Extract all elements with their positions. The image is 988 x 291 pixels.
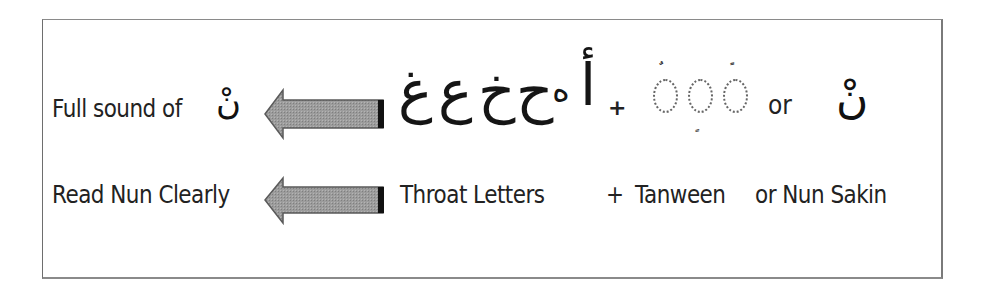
throat-letter-haa: ح	[516, 62, 553, 120]
tanween-dammatain-circle	[653, 79, 678, 113]
nun-sakin-symbol-left: نْ	[216, 82, 241, 122]
tanween-label: Tanween	[635, 180, 725, 209]
full-sound-label: Full sound of	[52, 94, 182, 123]
throat-letter-ghain: غ	[398, 62, 433, 120]
throat-letter-ha: ه	[552, 72, 570, 106]
throat-letter-khaa: خ	[478, 62, 515, 120]
left-arrow-icon	[263, 88, 387, 140]
read-nun-clearly-label: Read Nun Clearly	[52, 180, 230, 209]
or-label: or	[768, 90, 792, 120]
throat-letter-ain: ع	[438, 62, 473, 120]
tanween-kasratain-circle	[688, 79, 713, 113]
nun-sakin-symbol-right: نْ	[836, 72, 868, 123]
plus-sign: +	[608, 95, 626, 120]
tanween-fathatain-circle	[723, 79, 748, 113]
throat-letters-label: Throat Letters	[400, 180, 544, 209]
left-arrow-icon	[263, 176, 387, 228]
throat-letter-hamza: أ	[580, 56, 596, 114]
nun-sakin-label: or Nun Sakin	[755, 180, 887, 209]
plus-sign-row2: +	[606, 180, 624, 209]
